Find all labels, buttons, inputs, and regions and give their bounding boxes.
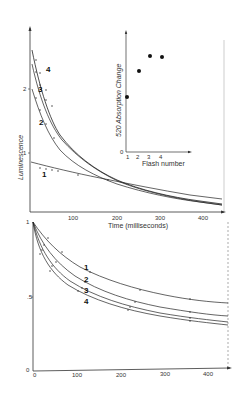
top-curve-label-4: 4 [46,65,51,74]
top-x-tick-300: 300 [155,215,166,221]
top-x-label: Time (milliseconds) [108,222,168,230]
bottom-x-tick-200: 200 [116,372,127,378]
top-x-arrow-icon [221,211,226,214]
top-y-arrow-icon [29,26,32,31]
bottom-curve-label-3: 3 [84,286,89,295]
top-curve-label-1: 1 [42,170,47,179]
bottom-y-tick-0: 0 [26,367,30,373]
top-y-label: Luminescence [17,135,24,180]
inset-point-2 [137,69,141,73]
top-curve-label-2: 2 [39,118,44,127]
top-x-tick-200: 200 [112,215,123,221]
inset-point-4 [160,55,164,59]
bottom-curve-label-1: 1 [84,263,89,272]
absorption-inset: 0 1 2 3 4 Flash number 520 Absorption Ch… [115,30,192,167]
inset-x-arrow-icon [188,151,192,153]
fluorescence-plot: 1 .5 0 0 100 200 300 400 1 2 3 4 [26,219,232,378]
top-x-tick-100: 100 [68,215,79,221]
bottom-x-axis [33,368,230,371]
bottom-x-tick-400: 400 [203,371,214,377]
bottom-y-tick-05: .5 [27,294,33,300]
bottom-x-tick-100: 100 [72,372,83,378]
inset-y-tick-0: 0 [120,149,124,155]
inset-x-tick-1: 1 [126,154,130,160]
bottom-curve-1 [33,222,228,303]
top-curve-2 [32,89,222,205]
inset-point-3 [148,54,152,58]
top-curve-1 [31,162,222,199]
inset-x-tick-2: 2 [136,154,140,160]
bottom-curve-2 [33,222,228,316]
top-curve-4 [32,50,222,204]
inset-point-1 [125,95,129,99]
bottom-curve-4 [33,222,228,325]
top-y-tick-2: 2 [23,86,27,92]
top-curve-label-3: 3 [38,85,43,94]
figure: 1 2 100 200 300 400 Time (milliseconds) … [0,0,248,406]
bottom-y-tick-1: 1 [26,219,30,225]
inset-y-arrow-icon [125,30,127,34]
bottom-curve-label-2: 2 [84,275,89,284]
inset-x-label: Flash number [142,160,185,167]
top-x-tick-400: 400 [198,215,209,221]
bottom-x-tick-0: 0 [33,372,37,378]
bottom-curve-label-4: 4 [84,297,89,306]
inset-y-label: 520 Absorption Change [115,64,123,137]
bottom-x-tick-300: 300 [160,371,171,377]
